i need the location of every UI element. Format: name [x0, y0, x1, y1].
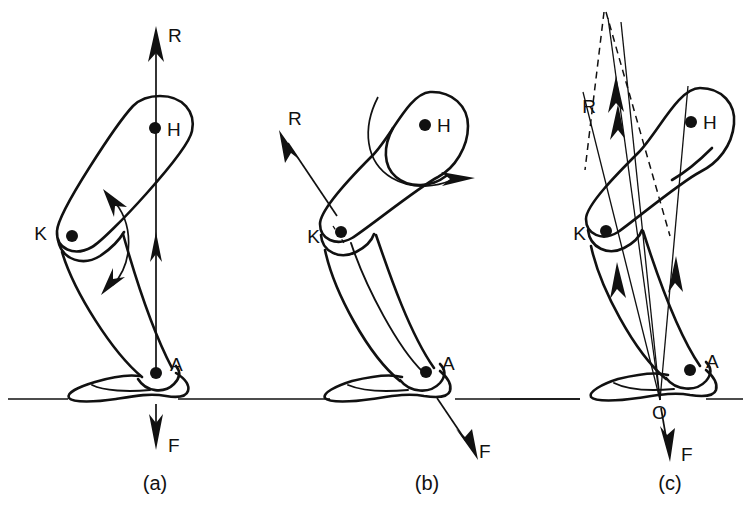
knee-joint-dot-b: [335, 226, 347, 238]
foot-arch-b: [348, 385, 408, 391]
reaction-arrowhead-c-3: [610, 262, 626, 299]
hip-contour-c: [672, 148, 712, 180]
reaction-label-a: R: [168, 25, 182, 46]
foot-arch-c: [614, 383, 674, 390]
ankle-joint-dot-a: [150, 367, 162, 379]
shank-midline-b: [351, 243, 423, 372]
thigh-arc-arrowhead-b: [441, 172, 475, 186]
reaction-arrowhead-c-1: [608, 76, 624, 113]
shank-outline-c-2: [643, 231, 700, 366]
hip-label-a: H: [167, 119, 181, 140]
knee-joint-dot-c: [600, 225, 612, 237]
biomechanics-figure: H K A R F (a): [0, 0, 743, 506]
shank-outline-b-2: [376, 235, 434, 368]
ankle-joint-dot-b: [420, 366, 432, 378]
dashed-construction-line-left-c: [585, 12, 604, 170]
knee-joint-dot-a: [66, 230, 78, 242]
force-label-b: F: [479, 441, 491, 462]
reaction-arrowhead-b: [279, 130, 300, 163]
force-label-c: F: [681, 444, 693, 465]
shank-outline-a: [62, 252, 142, 377]
ankle-joint-dot-c: [684, 364, 696, 376]
reaction-arrowhead-c-4: [668, 256, 683, 293]
panel-caption-b: (b): [415, 472, 439, 494]
shank-outline-a-2: [123, 234, 172, 368]
knee-contour-b: [321, 234, 374, 255]
hip-label-c: H: [703, 112, 717, 133]
reaction-label-b: R: [288, 108, 302, 129]
knee-label-c: K: [573, 223, 586, 244]
diagram-canvas: H K A R F (a): [0, 0, 743, 506]
force-arrowhead-c: [660, 426, 675, 462]
hip-joint-dot-b: [419, 119, 431, 131]
ankle-label-b: A: [442, 353, 455, 374]
knee-label-b: K: [307, 226, 320, 247]
ankle-label-c: A: [706, 351, 719, 372]
panel-caption-c: (c): [658, 472, 681, 494]
panel-a: H K A R F (a): [8, 25, 330, 494]
thigh-rotation-arc-b: [368, 97, 452, 186]
action-line-c-4: [660, 86, 688, 400]
ankle-label-a: A: [170, 354, 183, 375]
knee-arc-arrowhead-up-a: [103, 189, 127, 217]
foot-outline-b: [325, 371, 451, 402]
hip-label-b: H: [437, 115, 451, 136]
force-arrowhead-b: [456, 429, 478, 460]
knee-label-a: K: [34, 223, 47, 244]
origin-label-c: O: [652, 402, 667, 423]
force-label-a: F: [168, 435, 180, 456]
panel-caption-a: (a): [143, 472, 167, 494]
panel-c: H K A O R F (c): [500, 12, 743, 494]
thigh-outline-c: [586, 88, 734, 236]
hip-joint-dot-a: [149, 122, 161, 134]
hip-joint-dot-c: [685, 116, 697, 128]
panel-b: H K A R F (b): [279, 92, 580, 494]
action-line-c-2: [621, 22, 660, 400]
reaction-label-c: R: [582, 96, 596, 117]
foot-arch-a: [92, 385, 150, 391]
